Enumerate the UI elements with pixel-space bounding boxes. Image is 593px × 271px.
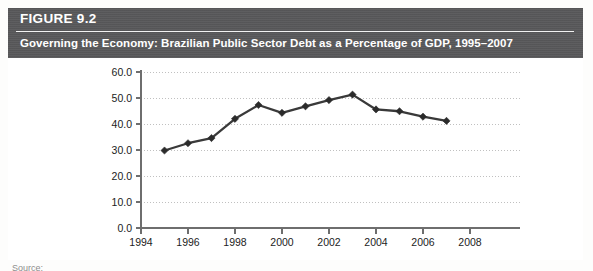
- y-axis-tick-label: 10.0: [112, 196, 133, 208]
- y-axis-tick-label: 0.0: [117, 222, 132, 234]
- page-background: FIGURE 9.2 Governing the Economy: Brazil…: [0, 0, 593, 271]
- data-point-marker: [161, 147, 168, 154]
- source-note: Source:: [12, 263, 572, 271]
- y-axis-tick-label: 40.0: [112, 118, 133, 130]
- data-point-marker: [396, 108, 403, 115]
- x-axis-tick-label: 2008: [458, 236, 482, 248]
- data-point-marker: [325, 96, 332, 103]
- x-axis-tick-label: 2004: [364, 236, 388, 248]
- chart-plot-area: 0.010.020.030.040.050.060.01994199619982…: [8, 58, 583, 260]
- x-axis-tick-label: 2000: [270, 236, 294, 248]
- x-axis-tick-label: 1998: [223, 236, 247, 248]
- x-axis-tick-label: 2002: [317, 236, 341, 248]
- y-axis-tick-label: 30.0: [112, 144, 133, 156]
- line-chart: 0.010.020.030.040.050.060.01994199619982…: [8, 58, 583, 260]
- data-point-marker: [302, 103, 309, 110]
- data-point-marker: [419, 113, 426, 120]
- data-point-marker: [278, 109, 285, 116]
- x-axis-tick-label: 1994: [129, 236, 153, 248]
- data-point-marker: [184, 140, 191, 147]
- y-axis-tick-label: 50.0: [112, 92, 133, 104]
- y-axis-tick-label: 60.0: [112, 66, 133, 78]
- figure-title: Governing the Economy: Brazilian Public …: [20, 37, 513, 49]
- x-axis-tick-label: 1996: [176, 236, 200, 248]
- y-axis-tick-label: 20.0: [112, 170, 133, 182]
- header-divider-rule: [16, 31, 574, 33]
- data-point-marker: [443, 117, 450, 124]
- figure-number-label: FIGURE 9.2: [20, 11, 97, 26]
- figure-header-bar: FIGURE 9.2 Governing the Economy: Brazil…: [8, 8, 583, 58]
- x-axis-tick-label: 2006: [411, 236, 435, 248]
